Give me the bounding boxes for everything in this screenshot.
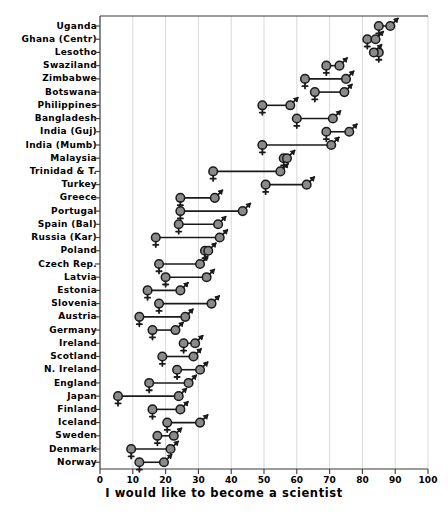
- female-marker: [151, 233, 160, 247]
- female-marker: [322, 61, 331, 75]
- male-marker: [176, 283, 188, 295]
- x-tick-label: 20: [159, 475, 172, 485]
- female-marker: [148, 326, 157, 340]
- data-row: [145, 375, 196, 392]
- gridlines: [133, 16, 428, 469]
- male-marker: [342, 71, 354, 83]
- data-row: [148, 402, 188, 419]
- male-marker: [196, 362, 208, 374]
- x-tick-label: 60: [291, 475, 304, 485]
- male-marker: [286, 98, 298, 110]
- data-row: [173, 362, 208, 379]
- data-row: [322, 124, 357, 141]
- data-row: [158, 349, 201, 366]
- female-marker: [153, 432, 162, 446]
- x-tick-label: 90: [389, 475, 402, 485]
- male-marker: [196, 415, 208, 427]
- female-marker: [174, 220, 183, 234]
- x-axis-title: I would like to become a scientist: [0, 486, 448, 500]
- data-row: [209, 164, 288, 181]
- female-marker: [209, 167, 218, 181]
- female-marker: [143, 286, 152, 300]
- female-marker: [148, 405, 157, 419]
- data-row: [163, 415, 208, 432]
- male-marker: [202, 269, 214, 281]
- female-marker: [258, 141, 267, 155]
- male-marker: [170, 428, 182, 440]
- chart-container: UgandaGhana (Centr)LesothoSwazilandZimba…: [0, 0, 448, 515]
- row-tick-marks: [95, 26, 100, 462]
- female-marker: [145, 379, 154, 393]
- data-markers: [114, 18, 398, 471]
- data-row: [155, 296, 219, 313]
- male-marker: [176, 402, 188, 414]
- female-marker: [135, 313, 144, 327]
- data-row: [201, 243, 216, 260]
- female-marker: [261, 180, 270, 194]
- data-row: [311, 84, 353, 101]
- male-marker: [302, 177, 314, 189]
- male-marker: [174, 388, 186, 400]
- female-marker: [179, 339, 188, 353]
- data-row: [261, 177, 314, 194]
- female-marker: [176, 207, 185, 221]
- x-tick-label: 10: [127, 475, 140, 485]
- female-marker: [176, 194, 185, 208]
- female-marker: [258, 101, 267, 115]
- x-axis-tick-marks: [100, 469, 428, 474]
- chart-plot-area: [0, 0, 448, 515]
- male-marker: [340, 84, 352, 96]
- female-marker: [293, 114, 302, 128]
- female-marker: [155, 260, 164, 274]
- male-marker: [238, 203, 250, 215]
- x-tick-label: 0: [97, 475, 103, 485]
- x-tick-label: 70: [323, 475, 336, 485]
- x-tick-label: 100: [419, 475, 438, 485]
- male-marker: [166, 441, 178, 453]
- data-row: [135, 309, 193, 326]
- male-marker: [345, 124, 357, 136]
- male-marker: [191, 336, 203, 348]
- female-marker: [173, 365, 182, 379]
- female-marker: [311, 88, 320, 102]
- female-marker: [158, 352, 167, 366]
- male-marker: [184, 375, 196, 387]
- male-marker: [386, 18, 398, 30]
- female-marker: [114, 392, 123, 406]
- male-marker: [171, 322, 183, 334]
- male-marker: [211, 190, 223, 202]
- female-marker: [163, 418, 172, 432]
- male-marker: [181, 309, 193, 321]
- data-row: [322, 58, 347, 75]
- male-marker: [215, 230, 227, 242]
- male-marker: [189, 349, 201, 361]
- female-marker: [301, 75, 310, 89]
- female-marker: [322, 127, 331, 141]
- male-marker: [335, 58, 347, 70]
- data-row: [375, 18, 398, 35]
- male-marker: [283, 151, 295, 163]
- female-marker: [155, 299, 164, 313]
- male-marker: [207, 296, 219, 308]
- data-row: [370, 45, 384, 62]
- male-marker: [329, 111, 341, 123]
- x-tick-label: 50: [258, 475, 271, 485]
- x-tick-label: 80: [356, 475, 369, 485]
- data-row: [293, 111, 341, 128]
- female-marker: [135, 458, 144, 472]
- x-tick-label: 30: [192, 475, 205, 485]
- data-row: [155, 256, 208, 273]
- female-marker: [127, 445, 136, 459]
- data-row: [176, 190, 222, 207]
- female-marker: [161, 273, 170, 287]
- data-row: [176, 203, 250, 220]
- female-marker: [363, 35, 372, 49]
- male-marker: [204, 243, 216, 255]
- x-tick-label: 40: [225, 475, 238, 485]
- male-marker: [214, 217, 226, 229]
